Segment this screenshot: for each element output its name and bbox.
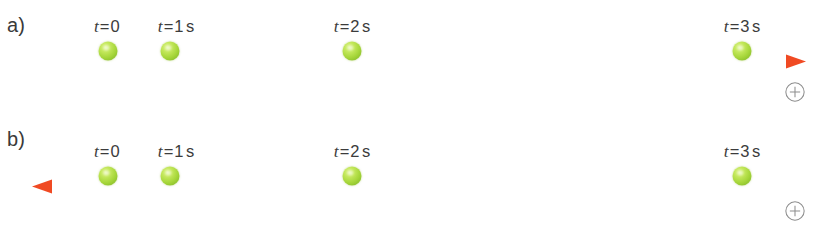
time-label-value: 0 bbox=[110, 142, 119, 160]
time-label-unit: s bbox=[362, 142, 370, 160]
time-label-value: 2 bbox=[350, 142, 359, 160]
time-label-t3-a: t=3s bbox=[724, 16, 760, 37]
time-label-t1-b: t=1s bbox=[158, 141, 194, 162]
time-label-t0-b: t=0 bbox=[94, 141, 122, 162]
time-label-equals: = bbox=[99, 142, 111, 160]
time-label-unit: s bbox=[362, 17, 370, 35]
motion-diagram-figure: a) t=0 t=1s t=2s bbox=[0, 0, 815, 228]
time-label-equals: = bbox=[163, 142, 175, 160]
time-label-t2-b: t=2s bbox=[334, 141, 370, 162]
time-label-value: 0 bbox=[110, 17, 119, 35]
ball-marker-t3-a bbox=[733, 42, 752, 61]
ball-marker-t2-a bbox=[343, 42, 362, 61]
ball-marker-t2-b bbox=[343, 167, 362, 186]
panel-b: b) t=0 t=1s t=2s bbox=[0, 114, 815, 228]
ball-marker-t1-a bbox=[161, 42, 180, 61]
ball-marker-t0-a bbox=[99, 42, 118, 61]
time-label-value: 2 bbox=[350, 17, 359, 35]
time-label-value: 1 bbox=[174, 17, 183, 35]
time-label-unit: s bbox=[752, 17, 760, 35]
ball-marker-t0-b bbox=[99, 167, 118, 186]
axis-arrowhead-right-a bbox=[786, 55, 806, 69]
time-label-t2-a: t=2s bbox=[334, 16, 370, 37]
positive-direction-plus-icon-b bbox=[785, 201, 806, 222]
ball-marker-t3-b bbox=[733, 167, 752, 186]
time-label-t0-a: t=0 bbox=[94, 16, 122, 37]
time-label-t3-b: t=3s bbox=[724, 141, 760, 162]
time-label-unit: s bbox=[186, 142, 194, 160]
time-label-equals: = bbox=[99, 17, 111, 35]
time-label-t1-a: t=1s bbox=[158, 16, 194, 37]
time-label-equals: = bbox=[339, 142, 351, 160]
time-label-equals: = bbox=[729, 142, 741, 160]
time-label-value: 1 bbox=[174, 142, 183, 160]
time-label-unit: s bbox=[752, 142, 760, 160]
axis-arrowhead-left-b bbox=[32, 180, 52, 194]
time-label-equals: = bbox=[339, 17, 351, 35]
panel-b-axis bbox=[0, 114, 815, 228]
positive-direction-plus-icon-a bbox=[785, 82, 806, 103]
panel-a-axis bbox=[0, 0, 815, 114]
time-label-value: 3 bbox=[740, 17, 749, 35]
panel-a: a) t=0 t=1s t=2s bbox=[0, 0, 815, 114]
ball-marker-t1-b bbox=[161, 167, 180, 186]
time-label-equals: = bbox=[729, 17, 741, 35]
time-label-equals: = bbox=[163, 17, 175, 35]
time-label-value: 3 bbox=[740, 142, 749, 160]
time-label-unit: s bbox=[186, 17, 194, 35]
